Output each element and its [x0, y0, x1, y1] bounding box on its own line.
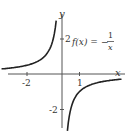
- function-denominator: x: [108, 43, 113, 52]
- curve-right-branch: [67, 79, 121, 131]
- chart: y x -2 1 2 -2 f(x) = − 1 x: [0, 0, 133, 131]
- x-tick-label-neg2: -2: [22, 78, 31, 88]
- y-tick-label-2: 2: [65, 34, 71, 44]
- curve-left-branch: [2, 21, 57, 69]
- y-axis-label: y: [58, 8, 65, 19]
- x-axis-label: x: [115, 67, 121, 78]
- x-tick-label-1: 1: [77, 78, 83, 88]
- function-numerator: 1: [108, 31, 113, 40]
- y-tick-label-neg2: -2: [49, 105, 58, 115]
- function-lhs: f(x) =: [71, 37, 98, 47]
